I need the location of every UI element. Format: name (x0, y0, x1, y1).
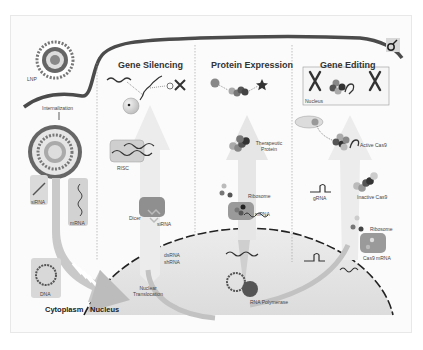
lnp-particle-icon (37, 42, 73, 78)
label-shrna: shRNA (164, 259, 180, 265)
label-sirna: siRNA (157, 221, 171, 227)
label-mrna: mRNA (255, 211, 270, 217)
star-protein-icon (256, 79, 268, 90)
label-ribosome: Ribosome (248, 193, 271, 199)
label-dna-cargo: DNA (40, 291, 51, 297)
expression-arrow (226, 115, 268, 240)
column-title-gene-silencing: Gene Silencing (118, 60, 183, 70)
endosome-icon (28, 125, 82, 179)
female-symbol-icon (386, 38, 400, 52)
label-cytoplasm: Cytoplasm (45, 305, 83, 314)
label-nucleus: Nucleus (90, 305, 119, 314)
label-inactive-cas9: Inactive Cas9 (357, 194, 387, 200)
label-internalization: Internalization (42, 105, 73, 111)
label-mrna-cargo: mRNA (70, 220, 85, 226)
column-title-protein-expression: Protein Expression (211, 60, 293, 70)
column-title-gene-editing: Gene Editing (320, 60, 376, 70)
label-grna: gRNA (313, 195, 326, 201)
diagram-artwork (0, 0, 423, 350)
label-dicer: Dicer (129, 215, 141, 221)
label-therapeutic-protein: Therapeutic Protein (252, 140, 286, 152)
label-risc: RISC (117, 165, 129, 171)
label-sirna-cargo: siRNA (31, 199, 45, 205)
label-protein: Protein (261, 146, 277, 152)
label-ribosome-cas9: Ribosome (370, 226, 393, 232)
ribosome-icon (228, 202, 254, 220)
label-active-cas9: Active Cas9 (360, 142, 387, 148)
label-dsrna: dsRNA (164, 252, 180, 258)
label-cas9-mrna: Cas9 mRNA (363, 255, 391, 261)
label-lnp: LNP (27, 76, 37, 82)
label-nucleus-inset: Nucleus (305, 98, 323, 104)
label-translocation: Translocation (133, 291, 163, 297)
label-nuclear-translocation: Nuclear Translocation (128, 285, 168, 297)
label-rna-polymerase: RNA Polymerase (250, 299, 288, 305)
